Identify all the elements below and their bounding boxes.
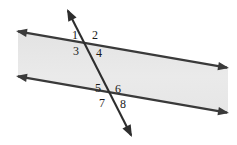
angle-label-1: 1 xyxy=(72,29,78,41)
angle-label-2: 2 xyxy=(92,29,98,41)
angle-label-8: 8 xyxy=(120,98,126,110)
angle-label-3: 3 xyxy=(73,45,79,57)
angle-label-7: 7 xyxy=(99,97,105,109)
angle-label-5: 5 xyxy=(95,82,101,94)
angle-label-6: 6 xyxy=(115,83,121,95)
arrowhead-transversal-bottom-icon xyxy=(122,124,132,137)
arrowhead-transversal-top-icon xyxy=(67,9,77,22)
geometry-diagram-svg xyxy=(0,0,237,145)
angle-label-4: 4 xyxy=(96,47,102,59)
arrowhead-bottom-left-icon xyxy=(16,74,28,82)
geometry-figure: 12345678 xyxy=(0,0,237,145)
